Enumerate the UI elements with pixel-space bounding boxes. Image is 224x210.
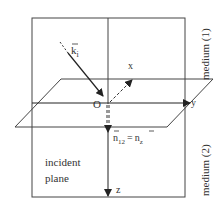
k-vector-label: ki — [71, 44, 80, 59]
z-axis-label: z — [116, 184, 121, 195]
medium2-label: medium (2) — [199, 144, 212, 196]
x-axis — [110, 80, 132, 102]
origin-label: O — [93, 98, 101, 110]
y-axis-label: y — [191, 97, 196, 108]
k-vector — [68, 53, 103, 96]
k-vector-dashed — [60, 42, 68, 53]
incident-plane-label-line1: incident — [45, 156, 80, 168]
medium1-label: medium (1) — [199, 28, 212, 80]
normal-label: n12=nz — [113, 132, 143, 146]
x-axis-label: x — [128, 60, 133, 71]
interface-diagram: ki O x y z n12=nz incident plane medium … — [0, 0, 224, 210]
incident-plane-label-line2: plane — [45, 172, 69, 184]
